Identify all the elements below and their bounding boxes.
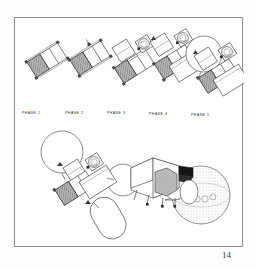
phase-1-diagram — [24, 40, 70, 80]
page-number: 14 — [222, 250, 248, 260]
phase-2-diagram — [64, 32, 113, 78]
phase-label-4: PHASE 4 — [149, 112, 167, 116]
figure-frame: PHASE 1 PHASE 2 PHASE 3 PHASE 4 PHASE 5 — [14, 17, 243, 247]
perspective-assembly-diagram — [131, 158, 230, 224]
phase-label-3: PHASE 3 — [107, 111, 125, 115]
phase-label-2: PHASE 2 — [65, 111, 83, 115]
page-canvas: PHASE 1 PHASE 2 PHASE 3 PHASE 4 PHASE 5 … — [0, 0, 257, 269]
phase-5-diagram — [186, 36, 244, 96]
figure-illustration — [15, 18, 244, 248]
phase-label-1: PHASE 1 — [22, 111, 40, 115]
phase-label-5: PHASE 5 — [191, 113, 209, 117]
full-assembly-diagram — [41, 131, 139, 244]
